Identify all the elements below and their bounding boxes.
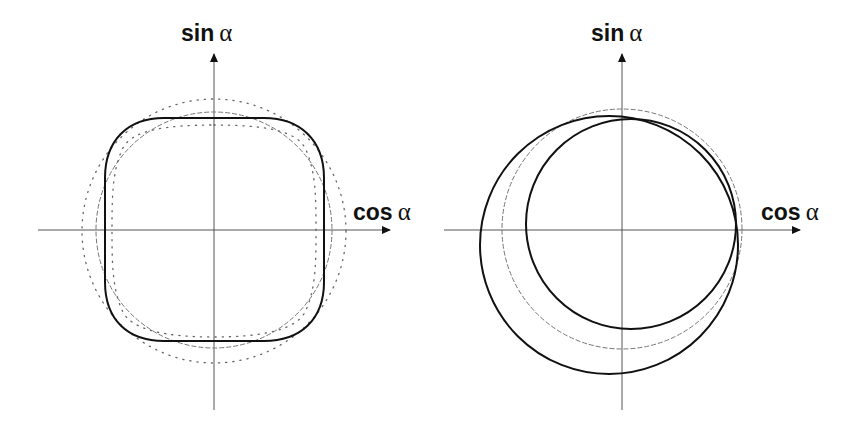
right-y-axis-label: sinα [591, 20, 642, 45]
right-large-offset-circle [480, 116, 738, 374]
right-x-var: α [806, 198, 819, 225]
left-panel [38, 54, 390, 410]
right-y-var: α [629, 19, 642, 46]
left-x-var: α [398, 198, 411, 225]
left-x-fn: cos [353, 199, 393, 225]
left-x-axis-label: cosα [353, 199, 411, 224]
figure: sinα cosα sinα cosα [0, 0, 860, 433]
left-y-var: α [219, 19, 232, 46]
diagram-canvas [0, 0, 860, 433]
right-y-fn: sin [591, 20, 624, 46]
left-y-fn: sin [181, 20, 214, 46]
right-x-axis-label: cosα [761, 199, 819, 224]
right-x-fn: cos [761, 199, 801, 225]
left-y-axis-label: sinα [181, 20, 232, 45]
right-small-offset-circle [526, 119, 736, 329]
right-panel [444, 54, 800, 410]
